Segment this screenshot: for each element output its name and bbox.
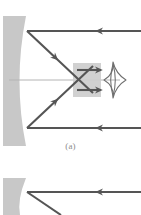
ray-diagram-svg <box>0 0 141 215</box>
panel-b <box>3 178 141 215</box>
panel-a-caption: (a) <box>0 141 141 151</box>
reflected-ray-upper <box>27 192 61 215</box>
concave-mirror <box>3 16 26 146</box>
figure-root: (a) <box>0 0 141 215</box>
panel-a <box>3 16 141 146</box>
concave-mirror <box>3 178 26 215</box>
reflected-ray-upper <box>27 31 93 93</box>
